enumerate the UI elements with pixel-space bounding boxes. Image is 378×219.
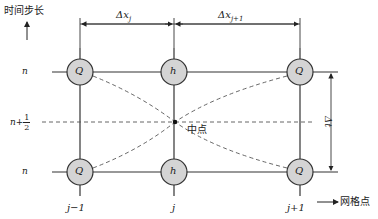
column-label-left: j−1 bbox=[67, 203, 85, 213]
time-axis-label: 时间步长 bbox=[4, 6, 44, 16]
fraction-denominator: 2 bbox=[23, 123, 30, 132]
dx-right-label: Δxj+1 bbox=[218, 10, 243, 23]
curve-left-upper bbox=[93, 76, 175, 122]
column-label-right: j+1 bbox=[287, 203, 305, 213]
row-label-bottom: n bbox=[22, 167, 28, 176]
node-label-top-right: Q bbox=[295, 66, 303, 76]
curve-left-lower bbox=[93, 122, 175, 168]
fraction-half: 12 bbox=[23, 113, 30, 132]
curve-right-upper bbox=[175, 76, 287, 122]
midpoint-label: 中点 bbox=[187, 125, 207, 135]
node-label-bottom-middle: h bbox=[170, 166, 176, 176]
row-label-middle: n+12 bbox=[10, 113, 30, 132]
row-label-middle-prefix: n+ bbox=[10, 117, 23, 127]
diagram-canvas bbox=[0, 0, 378, 219]
node-label-top-left: Q bbox=[75, 66, 83, 76]
node-label-top-middle: h bbox=[170, 66, 176, 76]
column-label-middle: j bbox=[172, 203, 175, 213]
dx-right-subscript: j+1 bbox=[231, 15, 244, 23]
node-label-bottom-right: Q bbox=[295, 166, 303, 176]
dx-left-symbol: Δx bbox=[116, 9, 129, 20]
grid-axis-label: 网格点 bbox=[340, 197, 370, 207]
dx-left-subscript: j bbox=[129, 15, 131, 23]
row-label-top: n bbox=[22, 67, 28, 76]
fraction-numerator: 1 bbox=[23, 113, 30, 123]
midpoint-dot bbox=[173, 120, 177, 124]
dt-label: Δt bbox=[323, 116, 333, 127]
dx-left-label: Δxj bbox=[116, 10, 131, 23]
node-label-bottom-left: Q bbox=[75, 166, 83, 176]
dx-right-symbol: Δx bbox=[218, 9, 231, 20]
